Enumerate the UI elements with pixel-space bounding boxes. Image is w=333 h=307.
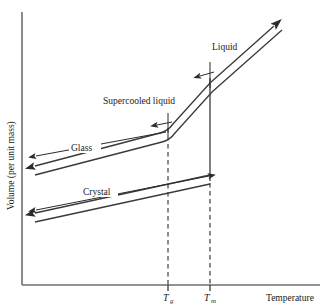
- x-axis-label: Temperature: [266, 293, 314, 303]
- leader-lines-group: [36, 62, 214, 210]
- tick-marks-group: [168, 285, 210, 291]
- tm-tick-label: T m: [204, 292, 216, 305]
- glass-label: Glass: [71, 143, 92, 153]
- volume-temperature-diagram: Liquid Supercooled liquid Glass Crystal …: [0, 0, 333, 307]
- axes-group: [22, 12, 320, 285]
- tm-subscript: m: [211, 297, 216, 305]
- tm-base: T: [204, 292, 211, 303]
- liquid-label: Liquid: [212, 42, 238, 52]
- guide-lines-group: [168, 128, 210, 285]
- tg-tick-label: T g: [163, 292, 174, 305]
- tg-base: T: [163, 292, 170, 303]
- tg-marker-arrow: [157, 122, 172, 125]
- y-axis-label: Volume (per unit mass): [6, 121, 17, 210]
- crystal-curve-lower: [35, 184, 210, 222]
- diagram-canvas: Liquid Supercooled liquid Glass Crystal …: [0, 0, 333, 307]
- crystal-label: Crystal: [83, 187, 111, 197]
- supercooled-liquid-label: Supercooled liquid: [103, 96, 175, 106]
- tg-subscript: g: [170, 297, 174, 305]
- tm-marker-arrow: [200, 72, 214, 76]
- crystal-curve-group: [35, 175, 210, 222]
- crystal-leader-line: [36, 176, 209, 210]
